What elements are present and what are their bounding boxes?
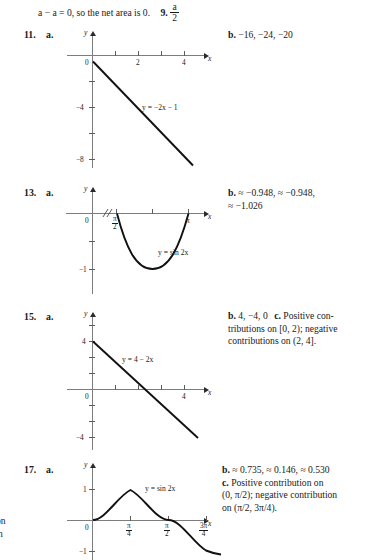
problem-13-number: 13. bbox=[24, 187, 36, 198]
problem-11-answers: b. −16, −24, −20 bbox=[228, 29, 364, 42]
answer-tag-c: c. bbox=[222, 477, 229, 488]
margin-cut-line-2: n bbox=[0, 528, 3, 541]
answer-tag-b: b. bbox=[222, 464, 230, 475]
curve-label-13a: y = sin 2x bbox=[158, 248, 188, 257]
problem-11-number: 11. bbox=[24, 29, 36, 40]
problem-15-part-a: a. bbox=[46, 311, 53, 322]
answer-line-b: b. ≈ 0.735, ≈ 0.146, ≈ 0.530 bbox=[222, 464, 366, 477]
problem-9-number: 9. bbox=[160, 7, 167, 18]
problem-15-answers: b. 4, −4, 0 c. Positive con- tributions … bbox=[228, 310, 366, 348]
answer-text-b: −16, −24, −20 bbox=[238, 29, 293, 40]
curve-label-15a: y = 4 − 2x bbox=[122, 355, 153, 364]
answer-text-c-cont1: (0, π/2); negative contribution bbox=[222, 489, 337, 500]
answer-tag-b: b. bbox=[228, 310, 236, 321]
fraction-denominator: 2 bbox=[170, 13, 179, 23]
curve-17a bbox=[60, 462, 225, 560]
curve-13a bbox=[60, 186, 220, 294]
answer-line-c: c. Positive contribution on bbox=[222, 477, 366, 490]
graph-17a: y x 0 π 4 π 2 3π 4 1 −1 y = sin 2x bbox=[60, 462, 220, 560]
answer-text-b: 4, −4, 0 bbox=[238, 310, 267, 321]
answer-text-b: ≈ −0.948, ≈ −0.948, bbox=[238, 187, 315, 198]
answer-line-c-cont1: (0, π/2); negative contribution bbox=[222, 489, 366, 502]
answer-text-c-cont2: contributions on (2, 4]. bbox=[228, 335, 316, 346]
curve-15a bbox=[60, 308, 220, 450]
answer-line-1: b. 4, −4, 0 c. Positive con- bbox=[228, 310, 366, 323]
answer-text-c-cont2: on (π/2, 3π/4). bbox=[222, 502, 277, 513]
margin-cut-line-1: on bbox=[0, 515, 6, 528]
curve-label-11a: y = −2x − 1 bbox=[142, 103, 178, 112]
answer-text-b-cont: ≈ −1.026 bbox=[228, 200, 263, 211]
graph-11a: y x 0 2 4 −4 −8 y = −2x − 1 bbox=[60, 28, 220, 168]
answer-line-b-cont: ≈ −1.026 bbox=[228, 200, 366, 213]
graph-13a: y x 0 π 2 π −1 y = sin 2x bbox=[60, 186, 220, 294]
answer-text-c-cont1: tributions on [0, 2); negative bbox=[228, 323, 338, 334]
curve-11a bbox=[60, 28, 220, 173]
problem-13-part-a: a. bbox=[46, 187, 53, 198]
answer-text-c: Positive contribution on bbox=[231, 477, 323, 488]
answer-key-page: a − a = 0, so the net area is 0. 9. a 2 … bbox=[0, 0, 366, 560]
problem-9-answer-fraction: a 2 bbox=[170, 2, 179, 23]
answer-line-3: contributions on (2, 4]. bbox=[228, 335, 366, 348]
header-sentence: a − a = 0, so the net area is 0. bbox=[38, 7, 150, 18]
answer-tag-c: c. bbox=[274, 310, 281, 321]
problem-13-answers: b. ≈ −0.948, ≈ −0.948, ≈ −1.026 bbox=[228, 187, 366, 212]
problem-17-answers: b. ≈ 0.735, ≈ 0.146, ≈ 0.530 c. Positive… bbox=[222, 464, 366, 514]
graph-15a: y x 0 4 4 −4 y = 4 − 2x bbox=[60, 308, 220, 450]
answer-text-c: Positive con- bbox=[283, 310, 333, 321]
answer-line-c-cont2: on (π/2, 3π/4). bbox=[222, 502, 366, 515]
header-line: a − a = 0, so the net area is 0. 9. a 2 bbox=[38, 2, 338, 23]
answer-text-b: ≈ 0.735, ≈ 0.146, ≈ 0.530 bbox=[232, 464, 329, 475]
problem-17-number: 17. bbox=[24, 464, 36, 475]
answer-tag-b: b. bbox=[228, 29, 236, 40]
problem-15-number: 15. bbox=[24, 311, 36, 322]
answer-tag-b: b. bbox=[228, 187, 236, 198]
answer-line-b: b. ≈ −0.948, ≈ −0.948, bbox=[228, 187, 366, 200]
problem-11-part-a: a. bbox=[46, 29, 53, 40]
problem-17-part-a: a. bbox=[46, 464, 53, 475]
answer-line-2: tributions on [0, 2); negative bbox=[228, 323, 366, 336]
curve-label-17a: y = sin 2x bbox=[145, 484, 175, 493]
